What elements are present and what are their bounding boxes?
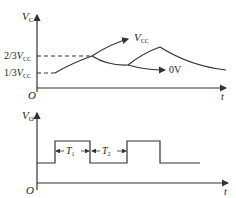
discharge-asymptote-0v	[128, 65, 165, 70]
level-2-3-vcc-label: 2/3VCC	[4, 50, 31, 62]
capacitor-voltage-plot: VC O t 2/3VCC 1/3VCC VCC 0V	[4, 10, 226, 102]
charge-curve-2	[128, 47, 160, 65]
charge-curve-1	[55, 56, 92, 73]
vo-axis-label: VO	[22, 109, 34, 123]
vc-axis-label: VC	[22, 10, 34, 24]
discharge-curve-1	[92, 56, 128, 65]
output-voltage-plot: VO O t T1 T2	[22, 109, 228, 197]
t2-label: T2	[102, 145, 111, 157]
t1-label: T1	[66, 145, 75, 157]
level-1-3-vcc-label: 1/3VCC	[4, 67, 31, 79]
zero-volt-label: 0V	[169, 64, 182, 75]
vcc-asymptote-label: VCC	[134, 31, 149, 44]
bottom-origin-label: O	[26, 184, 34, 196]
top-t-label: t	[221, 91, 224, 102]
bottom-t-label: t	[224, 186, 227, 197]
charge-asymptote-vcc	[92, 39, 128, 56]
timing-diagram: VC O t 2/3VCC 1/3VCC VCC 0V VO O t T1	[0, 0, 236, 198]
output-square-wave	[37, 141, 200, 163]
top-origin-label: O	[28, 89, 36, 101]
